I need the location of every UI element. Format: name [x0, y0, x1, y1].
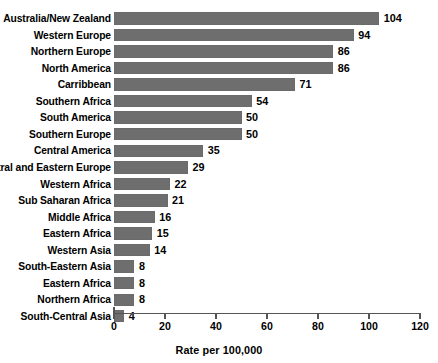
x-axis-tick	[419, 313, 420, 319]
category-label: South-Central Asia	[21, 309, 112, 326]
bar	[114, 277, 134, 289]
bar	[114, 194, 168, 206]
bar-value-label: 86	[338, 44, 350, 61]
bar-row: South-Eastern Asia8	[0, 259, 438, 276]
bar-rows: Australia/New Zealand104Western Europe94…	[0, 0, 438, 313]
bar-value-label: 86	[338, 61, 350, 78]
x-axis-tick	[164, 313, 165, 319]
x-axis-tick-label: 40	[210, 320, 222, 332]
bar	[114, 128, 242, 140]
bar-value-label: 21	[172, 193, 184, 210]
bar-value-label: 16	[159, 210, 171, 227]
bar-row: North America86	[0, 61, 438, 78]
x-axis-tick	[317, 313, 318, 319]
x-axis-tick-label: 20	[159, 320, 171, 332]
category-label: Western Europe	[34, 28, 111, 45]
bar	[114, 178, 170, 190]
bar-row: Central America35	[0, 143, 438, 160]
bar-row: Australia/New Zealand104	[0, 11, 438, 28]
category-label: Northern Europe	[31, 44, 111, 61]
category-label: Sub Saharan Africa	[18, 193, 111, 210]
bar	[114, 29, 354, 41]
bar-row: Western Europe94	[0, 28, 438, 45]
category-label: Middle Africa	[48, 210, 111, 227]
category-label: Central and Eastern Europe	[0, 160, 111, 177]
bar	[114, 12, 379, 24]
category-label: Australia/New Zealand	[3, 11, 111, 28]
category-label: Southern Europe	[29, 127, 111, 144]
bar-row: South America50	[0, 110, 438, 127]
category-label: Western Asia	[48, 243, 111, 260]
bar-row: Central and Eastern Europe29	[0, 160, 438, 177]
bar-value-label: 35	[208, 143, 220, 160]
bar-value-label: 14	[154, 243, 166, 260]
category-label: Central America	[34, 143, 111, 160]
bar	[114, 227, 152, 239]
bar-value-label: 8	[139, 292, 145, 309]
bar-row: Eastern Africa15	[0, 226, 438, 243]
bar	[114, 145, 203, 157]
x-axis-tick	[368, 313, 369, 319]
bar-row: Carribbean71	[0, 77, 438, 94]
bar	[114, 244, 150, 256]
bar	[114, 78, 295, 90]
bar-value-label: 104	[384, 11, 402, 28]
category-label: Carribbean	[58, 77, 111, 94]
bar-value-label: 50	[246, 127, 258, 144]
bar-value-label: 4	[129, 309, 135, 326]
bar	[114, 62, 333, 74]
x-axis-tick	[113, 313, 114, 319]
bar-row: Western Africa22	[0, 177, 438, 194]
bar-value-label: 22	[175, 177, 187, 194]
x-axis-tick-label: 60	[261, 320, 273, 332]
category-label: North America	[42, 61, 111, 78]
category-label: Eastern Africa	[43, 276, 111, 293]
bar-value-label: 54	[256, 94, 268, 111]
category-label: South-Eastern Asia	[18, 259, 111, 276]
bar-value-label: 8	[139, 276, 145, 293]
category-label: Northern Africa	[37, 292, 111, 309]
x-axis-tick-label: 120	[411, 320, 429, 332]
x-axis-title: Rate per 100,000	[0, 344, 438, 356]
x-axis-tick-label: 0	[111, 320, 117, 332]
bar-row: Northern Europe86	[0, 44, 438, 61]
bar-row: Southern Europe50	[0, 127, 438, 144]
x-axis-tick-label: 80	[312, 320, 324, 332]
bar-value-label: 29	[192, 160, 204, 177]
bar-row: Middle Africa16	[0, 210, 438, 227]
bar	[114, 260, 134, 272]
bar	[114, 45, 333, 57]
bar-value-label: 50	[246, 110, 258, 127]
category-label: Western Africa	[40, 177, 111, 194]
category-label: Eastern Africa	[43, 226, 111, 243]
bar-value-label: 15	[157, 226, 169, 243]
bar	[114, 161, 188, 173]
bar-row: Eastern Africa8	[0, 276, 438, 293]
bar-value-label: 8	[139, 259, 145, 276]
bar-value-label: 71	[300, 77, 312, 94]
x-axis-tick	[266, 313, 267, 319]
category-label: South America	[40, 110, 111, 127]
x-axis-tick-label: 100	[360, 320, 378, 332]
bar-row: Western Asia14	[0, 243, 438, 260]
bar-row: Sub Saharan Africa21	[0, 193, 438, 210]
bar-chart: Australia/New Zealand104Western Europe94…	[0, 0, 438, 363]
bar	[114, 211, 155, 223]
bar-value-label: 94	[358, 28, 370, 45]
bar	[114, 95, 252, 107]
bar	[114, 294, 134, 306]
x-axis-tick	[215, 313, 216, 319]
bar	[114, 111, 242, 123]
bar-row: Northern Africa8	[0, 292, 438, 309]
category-label: Southern Africa	[36, 94, 111, 111]
bar-row: Southern Africa54	[0, 94, 438, 111]
